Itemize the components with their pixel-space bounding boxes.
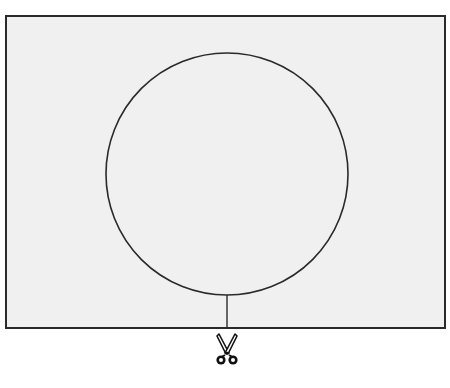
diagram-canvas (0, 0, 450, 388)
scissors-icon (213, 333, 241, 367)
circle-outline (106, 53, 348, 295)
